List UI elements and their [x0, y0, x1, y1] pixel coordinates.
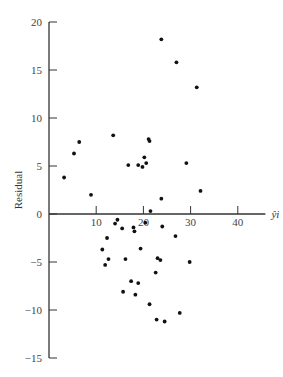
data-point	[139, 247, 143, 251]
data-point	[89, 193, 93, 197]
y-axis-label: Residual	[12, 171, 24, 210]
data-point	[103, 263, 107, 267]
data-point	[72, 152, 76, 156]
y-tick-label: 5	[37, 160, 43, 172]
data-point	[195, 85, 199, 89]
data-point	[148, 302, 152, 306]
data-point	[159, 197, 163, 201]
x-tick-label: 40	[232, 216, 244, 228]
x-tick-label: 30	[185, 216, 197, 228]
data-point	[159, 37, 163, 41]
data-point	[175, 60, 179, 64]
x-axis-label: ŷi	[270, 208, 279, 220]
data-point	[107, 257, 111, 261]
data-point	[158, 258, 162, 262]
data-point	[129, 279, 133, 283]
y-tick-label: −5	[30, 256, 42, 268]
residual-scatter-plot: 20151050−5−10−15 10203040 Residual ŷi	[0, 0, 283, 377]
data-point	[142, 155, 146, 159]
data-point	[121, 290, 125, 294]
data-point	[133, 293, 137, 297]
data-point	[154, 271, 158, 275]
data-point	[155, 318, 159, 322]
data-point	[141, 165, 145, 169]
data-point	[116, 218, 120, 222]
data-point	[113, 222, 117, 226]
data-point	[199, 189, 203, 193]
data-point	[148, 139, 152, 143]
data-points	[62, 37, 202, 323]
data-point	[62, 176, 66, 180]
data-point	[124, 257, 128, 261]
data-point	[133, 229, 137, 233]
data-point	[77, 140, 81, 144]
y-tick-label: 15	[31, 64, 43, 76]
data-point	[160, 225, 164, 229]
y-tick-label: −15	[25, 352, 43, 364]
data-point	[100, 248, 104, 252]
data-point	[174, 234, 178, 238]
data-point	[143, 221, 147, 225]
y-tick-label: 20	[31, 16, 43, 28]
data-point	[120, 227, 124, 231]
y-tick-label: −10	[25, 304, 43, 316]
y-ticks: 20151050−5−10−15	[25, 16, 57, 364]
data-point	[126, 163, 130, 167]
axes: 20151050−5−10−15 10203040 Residual ŷi	[12, 16, 279, 364]
data-point	[132, 226, 136, 230]
data-point	[163, 320, 167, 324]
data-point	[111, 133, 115, 137]
y-tick-label: 0	[37, 208, 43, 220]
data-point	[136, 281, 140, 285]
y-tick-label: 10	[31, 112, 43, 124]
data-point	[136, 163, 140, 167]
data-point	[188, 260, 192, 264]
data-point	[149, 209, 153, 213]
data-point	[105, 236, 109, 240]
data-point	[144, 161, 148, 165]
x-tick-label: 10	[91, 216, 103, 228]
data-point	[184, 161, 188, 165]
data-point	[178, 311, 182, 315]
